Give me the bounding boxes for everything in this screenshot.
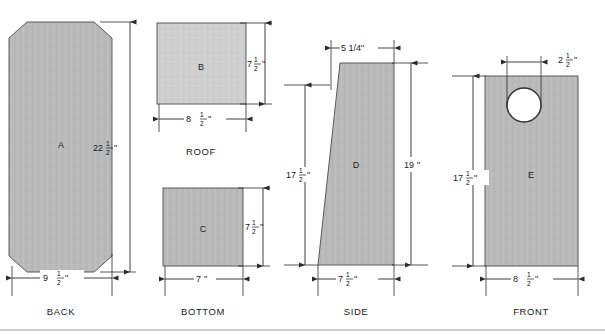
svg-text:2: 2 xyxy=(106,149,110,156)
svg-text:": " xyxy=(417,160,420,170)
roof-part-letter: B xyxy=(198,62,204,72)
front-entry-hole xyxy=(507,88,541,122)
svg-text:1: 1 xyxy=(200,111,204,118)
side-part-letter: D xyxy=(353,160,360,170)
svg-text:2: 2 xyxy=(254,65,258,72)
svg-text:1: 1 xyxy=(466,170,470,177)
side-rightheight-label: 19 " xyxy=(403,157,423,172)
svg-text:8: 8 xyxy=(513,274,518,284)
svg-text:2: 2 xyxy=(57,279,61,286)
bottom-view-label: BOTTOM xyxy=(181,306,225,317)
svg-text:7: 7 xyxy=(247,59,252,69)
svg-text:17: 17 xyxy=(453,173,463,183)
svg-text:1: 1 xyxy=(106,140,110,147)
svg-text:2: 2 xyxy=(252,228,256,235)
svg-text:": " xyxy=(204,274,207,284)
svg-text:8: 8 xyxy=(186,114,191,124)
svg-text:2: 2 xyxy=(346,280,350,287)
front-width-label: 8 1 2 " xyxy=(511,271,553,287)
svg-text:": " xyxy=(114,143,117,153)
svg-text:7: 7 xyxy=(196,274,201,284)
svg-text:1: 1 xyxy=(527,271,531,278)
svg-text:1: 1 xyxy=(252,219,256,226)
svg-text:7: 7 xyxy=(338,274,343,284)
svg-text:2: 2 xyxy=(527,280,531,287)
side-bottomwidth-label: 7 1 2 " xyxy=(336,271,378,287)
svg-text:2: 2 xyxy=(566,61,570,68)
svg-text:": " xyxy=(474,173,477,183)
svg-text:1: 1 xyxy=(346,271,350,278)
svg-text:17: 17 xyxy=(286,170,296,180)
side-view-label: SIDE xyxy=(344,306,369,317)
front-view-label: FRONT xyxy=(513,306,549,317)
svg-text:": " xyxy=(535,274,538,284)
side-topwidth-text: 5 1/4" xyxy=(341,43,364,53)
svg-text:1: 1 xyxy=(299,167,303,174)
svg-text:2: 2 xyxy=(299,176,303,183)
bottom-part-letter: C xyxy=(200,224,207,234)
back-width-label: 9 1 2 " xyxy=(40,270,84,286)
back-view-label: BACK xyxy=(47,306,75,317)
svg-text:19: 19 xyxy=(404,160,414,170)
svg-text:": " xyxy=(307,170,310,180)
svg-text:": " xyxy=(354,274,357,284)
svg-text:22: 22 xyxy=(93,143,103,153)
svg-text:": " xyxy=(262,59,265,69)
svg-text:2: 2 xyxy=(558,55,563,65)
roof-width-label: 8 1 2 " xyxy=(184,111,226,127)
drawing-sheet: A 22 1 2 " 9 1 2 " BACK B xyxy=(0,0,605,336)
svg-text:": " xyxy=(208,114,211,124)
bottom-width-label: 7 " xyxy=(194,271,216,286)
back-part-letter: A xyxy=(58,140,64,150)
svg-text:2: 2 xyxy=(200,120,204,127)
svg-text:": " xyxy=(65,273,68,283)
side-topwidth-label: 5 1/4" xyxy=(340,41,378,55)
svg-text:1: 1 xyxy=(57,270,61,277)
svg-text:": " xyxy=(574,55,577,65)
svg-text:7: 7 xyxy=(245,222,250,232)
front-height-label: 17 1 2 " xyxy=(452,170,489,186)
front-part-letter: E xyxy=(528,170,534,180)
svg-text:1: 1 xyxy=(566,52,570,59)
svg-text:1: 1 xyxy=(254,56,258,63)
side-leftheight-label: 17 1 2 " xyxy=(285,167,321,183)
svg-text:9: 9 xyxy=(43,273,48,283)
roof-view-label: ROOF xyxy=(186,146,216,157)
svg-text:": " xyxy=(260,222,263,232)
svg-text:2: 2 xyxy=(466,179,470,186)
